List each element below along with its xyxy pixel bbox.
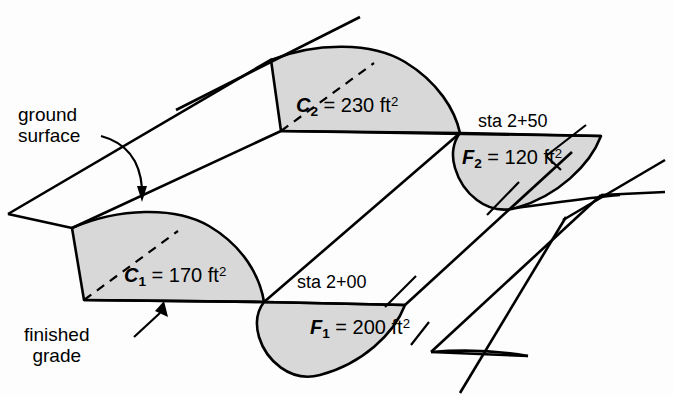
f1-unit: ft <box>392 316 403 338</box>
c1-area-label: C1 = 170 ft2 <box>124 264 226 289</box>
f1-area-label: F1 = 200 ft2 <box>310 316 410 341</box>
f2-area-label: F2 = 120 ft2 <box>462 146 562 171</box>
sta-2-50-label: sta 2+50 <box>478 111 548 132</box>
ground-surface-leader-arrow <box>101 136 142 188</box>
f1-symbol: F <box>310 316 322 338</box>
c2-subscript: 2 <box>310 104 318 119</box>
f1-equals: = <box>335 316 347 338</box>
earthwork-diagram: ground surface finished grade sta 2+50 s… <box>0 0 673 395</box>
f1-leader <box>411 322 429 345</box>
ground-surface-label-line1: ground <box>18 104 80 125</box>
c2-symbol: C <box>296 94 310 116</box>
f2-symbol: F <box>462 146 474 168</box>
f2-equals: = <box>487 146 499 168</box>
ground-surface-label: ground surface <box>18 104 80 146</box>
f2-exponent: 2 <box>555 146 562 161</box>
sta-2-00-leader <box>385 276 416 307</box>
c1-value: 170 <box>169 264 202 286</box>
c2-value: 230 <box>341 94 374 116</box>
finished-grade-label: finished grade <box>24 324 90 366</box>
c1-unit: ft <box>208 264 219 286</box>
ground-surface-label-line2: surface <box>18 125 80 146</box>
f2-fill-area <box>453 133 601 210</box>
c1-equals: = <box>152 264 164 286</box>
connector-fill-right <box>431 195 601 352</box>
c2-unit: ft <box>380 94 391 116</box>
f1-value: 200 <box>353 316 386 338</box>
side-slope-right-lower <box>460 217 566 393</box>
finished-grade-label-line2: grade <box>24 345 90 366</box>
sta-2-00-label: sta 2+00 <box>297 272 367 293</box>
f1-subscript: 1 <box>322 326 330 341</box>
c2-area-label: C2 = 230 ft2 <box>296 94 398 119</box>
c2-equals: = <box>324 94 336 116</box>
ground-line-lower-left-toe <box>8 214 72 228</box>
finished-grade-label-line1: finished <box>24 324 90 345</box>
c1-subscript: 1 <box>138 274 146 289</box>
f2-unit: ft <box>544 146 555 168</box>
c1-exponent: 2 <box>219 264 226 279</box>
c2-exponent: 2 <box>391 94 398 109</box>
c1-symbol: C <box>124 264 138 286</box>
f2-subscript: 2 <box>474 156 482 171</box>
f1-exponent: 2 <box>403 316 410 331</box>
f2-value: 120 <box>505 146 538 168</box>
c2-cut-area <box>271 47 460 133</box>
finished-grade-leader-line <box>134 313 160 337</box>
